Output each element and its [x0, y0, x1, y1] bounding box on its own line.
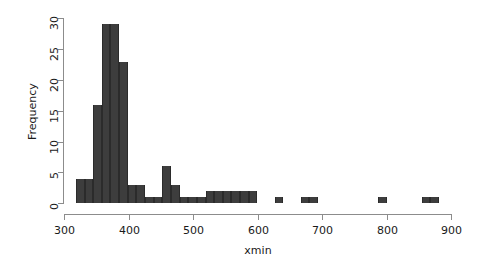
histogram-bar [214, 191, 223, 203]
histogram-bar [136, 185, 145, 204]
histogram-bar [223, 191, 232, 203]
histogram-bar [110, 24, 119, 203]
histogram-bar [180, 197, 189, 203]
histogram-bar [309, 197, 318, 203]
histogram-bar [378, 197, 387, 203]
histogram-bar [154, 197, 163, 203]
histogram-bar [76, 179, 85, 204]
histogram-bar [93, 105, 102, 204]
histogram-bar [301, 197, 310, 203]
histogram-bar [249, 191, 258, 203]
histogram-bar [162, 166, 171, 203]
histogram-bar [145, 197, 154, 203]
histogram-bar [102, 24, 111, 203]
histogram-bar [197, 197, 206, 203]
bars-layer [0, 0, 481, 267]
histogram-bar [85, 179, 94, 204]
histogram-bar [171, 185, 180, 204]
histogram-bar [128, 185, 137, 204]
histogram-bar [430, 197, 439, 203]
histogram-bar [240, 191, 249, 203]
histogram-figure: 0 5 10 15 20 25 30 300 400 500 600 700 8… [0, 0, 481, 267]
histogram-bar [119, 62, 128, 204]
histogram-bar [275, 197, 284, 203]
histogram-bar [206, 191, 215, 203]
plot-area: 0 5 10 15 20 25 30 300 400 500 600 700 8… [0, 0, 481, 267]
histogram-bar [422, 197, 431, 203]
histogram-bar [188, 197, 197, 203]
histogram-bar [231, 191, 240, 203]
